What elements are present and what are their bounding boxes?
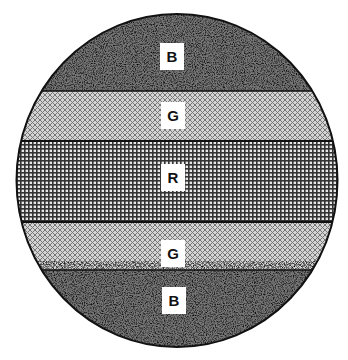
band-label-center: R — [161, 164, 185, 191]
band-label-upper-middle: G — [161, 102, 185, 129]
band-label-bottom: B — [162, 287, 186, 314]
band-label-top: B — [160, 43, 184, 70]
band-label-lower-middle: G — [161, 240, 185, 267]
